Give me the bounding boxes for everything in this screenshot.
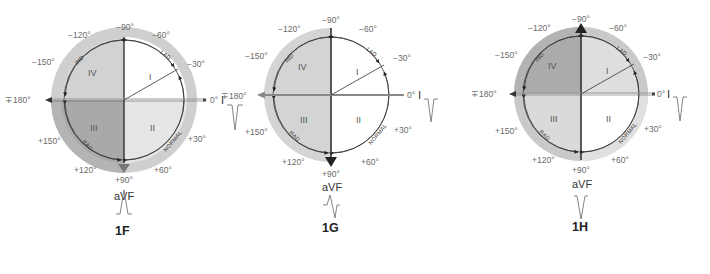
figure-caption-1f: 1F: [115, 224, 130, 238]
arrow-180-icon: [45, 97, 52, 103]
quadrant-I-label: I: [606, 66, 609, 76]
deg-minus60: −60°: [152, 30, 170, 40]
deg-minus120: −120°: [528, 23, 551, 33]
deg-minus150: −150°: [495, 50, 518, 60]
deg-plus120: +120°: [74, 165, 97, 175]
deg-0: 0°: [657, 89, 665, 99]
deg-minus150: −150°: [245, 51, 268, 61]
figure-caption-1h: 1H: [572, 220, 588, 234]
deg-plus60: +60°: [611, 155, 629, 165]
deg-plus90: +90°: [572, 165, 590, 175]
deg-180: ∓180°: [5, 95, 31, 105]
deg-plus120: +120°: [282, 157, 305, 167]
quadrant-IV-label: IV: [548, 61, 557, 71]
lead-I-label: I: [667, 88, 670, 100]
deg-minus30: −30°: [643, 52, 661, 62]
arrow-180-icon: [257, 92, 265, 99]
deg-plus150: +150°: [38, 136, 61, 146]
deg-plus30: +30°: [394, 125, 412, 135]
figure-1g: IV I III II IND LAD RAD NORMAL −90° −120…: [221, 15, 438, 235]
aVF-label: aVF: [322, 181, 342, 193]
deg-180: ∓180°: [471, 89, 497, 99]
deg-plus150: +150°: [245, 127, 268, 137]
deg-plus120: +120°: [532, 155, 555, 165]
deg-minus30: −30°: [393, 53, 411, 63]
deg-plus90: +90°: [115, 175, 133, 185]
quadrant-I-label: I: [149, 72, 152, 82]
deg-plus60: +60°: [154, 165, 172, 175]
deg-minus90: −90°: [572, 14, 590, 24]
deg-minus90: −90°: [116, 22, 134, 32]
deg-0: 0°: [407, 90, 415, 100]
deg-minus30: −30°: [187, 59, 205, 69]
figure-1f: IV I III II IND LAD RAD NORMAL −90° −120…: [5, 22, 243, 238]
normal-arc: [334, 72, 389, 153]
quadrant-III-label: III: [550, 114, 558, 124]
arrow-plus90-icon: [325, 157, 337, 167]
deg-minus60: −60°: [609, 23, 627, 33]
deg-minus120: −120°: [278, 24, 301, 34]
quadrant-I-fill: [124, 37, 187, 100]
lead-I-label: I: [418, 89, 421, 101]
hexaxial-figure-set: IV I III II IND LAD RAD NORMAL −90° −120…: [0, 0, 710, 274]
quadrant-III-label: III: [300, 115, 308, 125]
deg-plus150: +150°: [495, 126, 518, 136]
aVF-biphasic-qrs: [323, 195, 340, 218]
arrow-180-icon: [509, 91, 516, 97]
aVF-label: aVF: [572, 178, 592, 190]
quadrant-II-label: II: [606, 114, 611, 124]
deg-minus120: −120°: [68, 30, 91, 40]
figure-caption-1g: 1G: [322, 221, 339, 235]
quadrant-I-label: I: [356, 67, 359, 77]
quadrant-III-label: III: [90, 123, 98, 133]
deg-minus150: −150°: [32, 57, 55, 67]
lad-label: LAD: [365, 46, 378, 58]
deg-plus30: +30°: [188, 134, 206, 144]
deg-plus90: +90°: [322, 169, 340, 179]
quadrant-II-label: II: [356, 115, 361, 125]
lead-I-negative-qrs: [424, 99, 438, 122]
deg-minus60: −60°: [359, 24, 377, 34]
lead-I-negative-qrs: [673, 97, 687, 121]
quadrant-II-label: II: [150, 123, 155, 133]
aVF-negative-qrs: [574, 196, 588, 219]
deg-180: ∓180°: [221, 91, 247, 101]
deg-plus60: +60°: [361, 157, 379, 167]
normal-label: NORMAL: [367, 122, 388, 145]
lead-I-negative-qrs: [227, 105, 243, 130]
quadrant-I-fill: [581, 36, 639, 94]
deg-plus30: +30°: [644, 124, 662, 134]
deg-0: 0°: [210, 95, 218, 105]
deg-minus90: −90°: [322, 15, 340, 25]
figure-1h: IV I III II IND LAD RAD NORMAL −90° −120…: [471, 14, 687, 234]
quadrant-IV-label: IV: [298, 62, 307, 72]
quadrant-IV-label: IV: [88, 68, 97, 78]
